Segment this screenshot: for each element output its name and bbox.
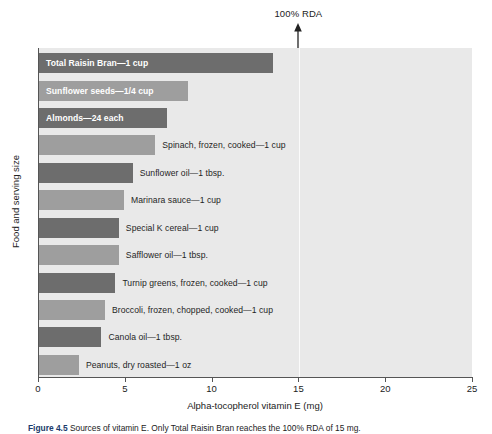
- bar: [39, 218, 119, 238]
- plot-area: Total Raisin Bran—1 cupSunflower seeds—1…: [38, 48, 472, 377]
- bar-label: Sunflower oil—1 tbsp.: [133, 163, 225, 183]
- figure-caption: Figure 4.5 Sources of vitamin E. Only To…: [28, 423, 468, 434]
- x-tick: [125, 377, 126, 382]
- bar-label: Total Raisin Bran—1 cup: [39, 53, 148, 73]
- bar-label: Peanuts, dry roasted—1 oz: [79, 355, 191, 375]
- figure-caption-body: Sources of vitamin E. Only Total Raisin …: [70, 423, 361, 433]
- bar-label: Special K cereal—1 cup: [119, 218, 219, 238]
- bar-label: Almonds—24 each: [39, 108, 124, 128]
- x-tick: [38, 377, 39, 382]
- bar: [39, 135, 155, 155]
- x-tick: [298, 377, 299, 382]
- rda-label: 100% RDA: [250, 8, 346, 19]
- bar-label: Spinach, frozen, cooked—1 cup: [155, 135, 285, 155]
- rda-reference-line: [299, 48, 300, 377]
- bar-label: Safflower oil—1 tbsp.: [119, 245, 208, 265]
- x-tick-label: 20: [380, 383, 391, 394]
- bar: [39, 245, 119, 265]
- bar: [39, 163, 133, 183]
- bar: [39, 355, 79, 375]
- x-tick: [472, 377, 473, 382]
- x-tick: [385, 377, 386, 382]
- bar: [39, 300, 105, 320]
- x-tick-label: 5: [122, 383, 127, 394]
- bar: [39, 190, 124, 210]
- x-tick-label: 25: [467, 383, 478, 394]
- rda-annotation: 100% RDA: [250, 8, 346, 52]
- bar: [39, 327, 101, 347]
- bar-label: Broccoli, frozen, chopped, cooked—1 cup: [105, 300, 273, 320]
- y-axis-title: Food and serving size: [10, 112, 21, 292]
- bar-label: Sunflower seeds—1/4 cup: [39, 81, 154, 101]
- bar-label: Canola oil—1 tbsp.: [101, 327, 182, 347]
- x-axis-title: Alpha-tocopherol vitamin E (mg): [38, 400, 472, 411]
- x-tick-label: 0: [35, 383, 40, 394]
- x-tick-label: 15: [293, 383, 304, 394]
- figure-caption-number: Figure 4.5: [28, 423, 68, 433]
- bar: [39, 273, 115, 293]
- bar-label: Turnip greens, frozen, cooked—1 cup: [115, 273, 267, 293]
- x-axis-line: [38, 377, 472, 378]
- bar-label: Marinara sauce—1 cup: [124, 190, 221, 210]
- x-tick: [212, 377, 213, 382]
- x-tick-label: 10: [206, 383, 217, 394]
